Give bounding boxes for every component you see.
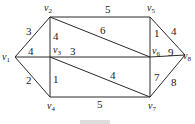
edge-weight-v3-v7: 4 xyxy=(110,69,116,81)
edge-weight-v5-v8: 4 xyxy=(171,25,177,37)
edge-weight-v3-v4: 1 xyxy=(53,73,59,85)
edge-weight-v7-v8: 8 xyxy=(171,76,177,88)
vertex-label-v3: v3 xyxy=(53,44,61,57)
edge-v2-v6 xyxy=(50,17,150,57)
vertex-label-v2: v2 xyxy=(44,2,52,15)
vertex-label-v6: v6 xyxy=(152,45,160,58)
edge-v1-v4 xyxy=(15,57,50,97)
vertex-label-v1: v1 xyxy=(2,51,10,64)
edge-weight-v6-v8: 9 xyxy=(168,46,174,58)
edge-weight-v5-v6: 1 xyxy=(154,27,160,39)
edge-weight-v1-v4: 2 xyxy=(26,74,32,86)
edge-weight-v2-v6: 6 xyxy=(100,24,106,36)
vertex-label-v7: v7 xyxy=(148,100,156,113)
weighted-graph: 342415634514978 v1v2v3v4v5v6v7v8 xyxy=(0,0,195,124)
figure-caption-cropped xyxy=(80,120,110,124)
edge-weight-v1-v3: 4 xyxy=(28,45,34,57)
edge-weight-v1-v2: 3 xyxy=(26,25,32,37)
edge-weight-v6-v7: 7 xyxy=(154,71,160,83)
vertex-label-v5: v5 xyxy=(147,2,155,15)
vertex-label-v8: v8 xyxy=(183,50,191,63)
edge-weight-v3-v6: 3 xyxy=(70,45,76,57)
edge-weight-v2-v3: 4 xyxy=(53,30,59,42)
vertex-label-v4: v4 xyxy=(47,100,55,113)
edge-v3-v7 xyxy=(50,57,150,97)
edge-weight-v4-v7: 5 xyxy=(97,98,103,110)
edge-weight-v2-v5: 5 xyxy=(105,3,111,15)
